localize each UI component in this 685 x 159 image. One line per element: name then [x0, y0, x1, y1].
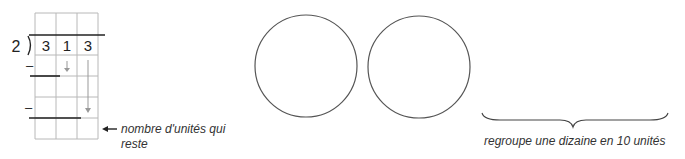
dividend-digit-units: 3 [78, 37, 98, 54]
remainder-note: nombre d'unités qui reste [121, 122, 241, 152]
bring-down-arrow-icon [64, 61, 70, 72]
left-arrow-icon [102, 126, 117, 132]
dividend-digit-tens: 1 [57, 37, 77, 54]
bring-down-long-arrow-icon [85, 60, 91, 113]
curly-brace-icon [482, 113, 668, 127]
dividend-digit-hundreds: 3 [36, 37, 56, 54]
circle-2 [368, 16, 470, 118]
circle-1 [255, 15, 357, 117]
divisor: 2 [6, 38, 26, 56]
brace-note: regroupe une dizaine en 10 unités [484, 134, 684, 149]
minus-sign-1: – [26, 58, 33, 73]
minus-sign-2: – [25, 100, 32, 115]
